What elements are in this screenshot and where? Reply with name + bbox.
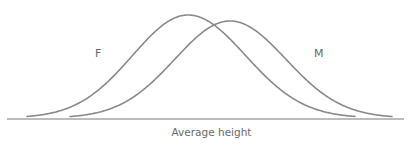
female-series-label: F [95, 48, 101, 59]
male-distribution-curve [70, 21, 392, 117]
height-distribution-chart: F M Average height [0, 0, 419, 150]
x-axis-title: Average height [0, 127, 419, 138]
male-series-label: M [314, 48, 324, 59]
female-distribution-curve [27, 15, 355, 116]
